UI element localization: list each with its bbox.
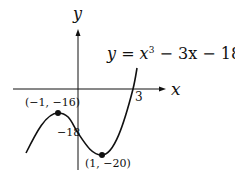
equation-label: y = x3 − 3x − 18 bbox=[107, 46, 235, 62]
max-point-label: (−1, −16) bbox=[25, 97, 80, 108]
y-axis-arrow-icon bbox=[76, 29, 81, 36]
cubic-graph: y x y = x3 − 3x − 18 (−1, −16) (1, −20) … bbox=[0, 0, 235, 185]
min-point-label: (1, −20) bbox=[85, 158, 131, 169]
equation-rhs: − 3x − 18 bbox=[154, 44, 235, 63]
y-axis-label: y bbox=[73, 6, 82, 22]
local-max-point bbox=[55, 110, 61, 116]
equation-lhs: y = x bbox=[107, 44, 149, 63]
x-axis-label: x bbox=[171, 81, 181, 98]
cubic-curve bbox=[26, 68, 137, 155]
y-intercept-label: −18 bbox=[57, 127, 80, 138]
x-intercept-label: 3 bbox=[135, 91, 143, 103]
x-axis-arrow-icon bbox=[159, 87, 166, 92]
